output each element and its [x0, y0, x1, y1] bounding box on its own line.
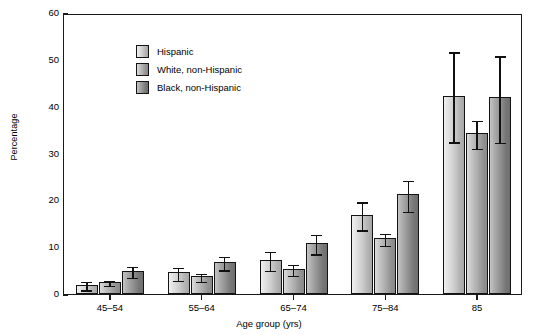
x-tick-label: 45–54 — [70, 302, 150, 313]
bar-group — [443, 15, 511, 294]
error-bar-cap-upper — [127, 267, 138, 268]
y-tick-label: 40 — [19, 101, 59, 112]
error-bar-line — [362, 202, 363, 230]
error-bar-cap-lower — [403, 212, 414, 213]
error-bar-line — [270, 252, 271, 271]
y-axis-title: Percentage — [9, 97, 19, 177]
error-bar-cap-upper — [357, 202, 368, 203]
bar-group — [351, 15, 419, 294]
error-bar-cap-lower — [380, 246, 391, 247]
y-tick-label: 50 — [19, 54, 59, 65]
error-bar-line — [476, 121, 477, 149]
legend-item[interactable]: Black, non-Hispanic — [136, 79, 242, 95]
error-bar-cap-lower — [288, 276, 299, 277]
legend: HispanicWhite, non-HispanicBlack, non-Hi… — [136, 43, 242, 97]
bar-group — [260, 15, 328, 294]
legend-swatch — [136, 45, 149, 58]
error-bar-cap-lower — [173, 281, 184, 282]
y-tick-label: 10 — [19, 241, 59, 252]
error-bar-cap-upper — [403, 181, 414, 182]
error-bar-cap-lower — [311, 254, 322, 255]
error-bar-cap-upper — [219, 257, 230, 258]
legend-swatch — [136, 81, 149, 94]
error-bar-cap-upper — [81, 282, 92, 283]
plot-area: 45–5455–6465–7475–8485 HispanicWhite, no… — [63, 14, 522, 295]
legend-item[interactable]: White, non-Hispanic — [136, 61, 242, 77]
error-bar-cap-upper — [196, 274, 207, 275]
error-bar-cap-lower — [495, 143, 506, 144]
error-bar-cap-lower — [81, 290, 92, 291]
error-bar-cap-upper — [311, 235, 322, 236]
x-tick-label: 55–64 — [162, 302, 242, 313]
error-bar-cap-upper — [288, 265, 299, 266]
error-bar-line — [499, 56, 500, 143]
bar[interactable] — [466, 133, 488, 294]
error-bar-cap-lower — [127, 278, 138, 279]
error-bar-line — [132, 267, 133, 278]
x-tick-mark — [476, 295, 477, 300]
error-bar-line — [178, 268, 179, 281]
error-bar-cap-lower — [265, 271, 276, 272]
y-tick-label: 20 — [19, 194, 59, 205]
error-bar-line — [293, 265, 294, 276]
y-tick-label: 0 — [19, 288, 59, 299]
error-bar-cap-lower — [196, 282, 207, 283]
error-bar-line — [453, 52, 454, 142]
error-bar-cap-lower — [357, 230, 368, 231]
x-axis-title: Age group (yrs) — [0, 318, 538, 329]
error-bar-line — [316, 235, 317, 255]
y-tick-label: 30 — [19, 148, 59, 159]
y-tick-label: 60 — [19, 7, 59, 18]
error-bar-line — [224, 257, 225, 271]
legend-label: Hispanic — [157, 46, 193, 57]
error-bar-cap-lower — [472, 149, 483, 150]
error-bar-cap-upper — [495, 56, 506, 57]
error-bar-cap-lower — [449, 142, 460, 143]
bar-chart-figure: Percentage Age group (yrs) 0102030405060… — [0, 0, 538, 335]
error-bar-cap-upper — [265, 252, 276, 253]
legend-label: White, non-Hispanic — [157, 64, 242, 75]
legend-item[interactable]: Hispanic — [136, 43, 242, 59]
bar-group — [76, 15, 144, 294]
x-tick-mark — [109, 295, 110, 300]
x-tick-mark — [201, 295, 202, 300]
x-tick-label: 65–74 — [254, 302, 334, 313]
legend-label: Black, non-Hispanic — [157, 82, 241, 93]
error-bar-cap-upper — [380, 234, 391, 235]
legend-swatch — [136, 63, 149, 76]
x-tick-label: 75–84 — [345, 302, 425, 313]
error-bar-cap-upper — [449, 52, 460, 53]
error-bar-cap-upper — [104, 281, 115, 282]
error-bar-line — [408, 181, 409, 212]
error-bar-cap-lower — [104, 286, 115, 287]
error-bar-cap-upper — [173, 268, 184, 269]
error-bar-line — [385, 234, 386, 246]
x-tick-mark — [293, 295, 294, 300]
x-tick-label: 85 — [437, 302, 517, 313]
error-bar-cap-lower — [219, 270, 230, 271]
x-tick-mark — [385, 295, 386, 300]
error-bar-cap-upper — [472, 121, 483, 122]
